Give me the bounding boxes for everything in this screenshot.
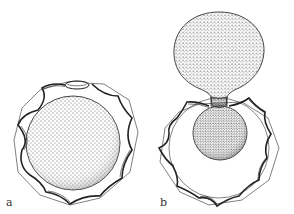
panel-a: a: [0, 0, 147, 214]
pear-body: [174, 12, 264, 105]
panel-a-illustration: [0, 0, 147, 214]
panel-label-a: a: [6, 197, 13, 208]
panel-b: b: [147, 0, 294, 214]
panel-label-b: b: [160, 197, 167, 208]
panel-b-illustration: [147, 0, 294, 214]
